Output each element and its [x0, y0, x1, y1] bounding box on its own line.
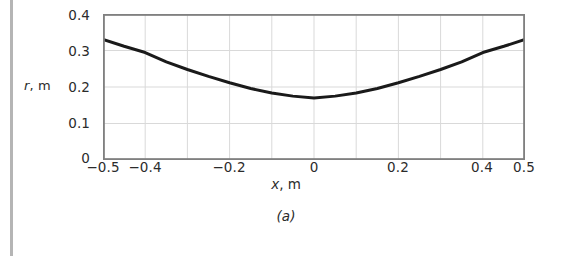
x-tick-label--0.2: −0.2 [207, 159, 251, 175]
x-tick-label-0: 0 [292, 159, 336, 175]
y-axis-label-unit: , m [29, 78, 50, 93]
y-axis-label: r, m [24, 78, 51, 93]
x-tick-label-0.5: 0.5 [502, 159, 546, 175]
y-tick-label-0.3: 0.3 [56, 43, 90, 59]
x-tick-label-0.2: 0.2 [376, 159, 420, 175]
x-axis-label-symbol: x [271, 176, 279, 192]
y-tick-label-0.2: 0.2 [56, 79, 90, 95]
x-tick-label--0.5: −0.5 [81, 159, 125, 175]
figure-caption: (a) [0, 208, 572, 224]
x-tick-label-0.4: 0.4 [460, 159, 504, 175]
y-tick-label-0.1: 0.1 [56, 115, 90, 131]
x-axis-label-unit: , m [279, 176, 301, 192]
x-axis-label: x, m [0, 176, 572, 192]
plot-area [103, 14, 525, 160]
y-tick-label-0.4: 0.4 [56, 7, 90, 23]
figure-panel-a: r, m 0.4 0.3 0.2 0.1 0 −0.5 [0, 0, 572, 256]
x-tick-label--0.4: −0.4 [123, 159, 167, 175]
